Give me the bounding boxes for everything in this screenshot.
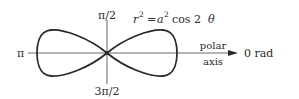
eq-a-exp: 2 xyxy=(164,10,169,19)
label-pi: π xyxy=(17,47,24,60)
label-3pi-over-2: 3π/2 xyxy=(95,85,120,98)
label-polar: polar xyxy=(200,40,227,51)
eq-r-exp: 2 xyxy=(139,10,144,19)
eq-equals: = xyxy=(147,13,156,26)
label-0-rad: 0 rad xyxy=(244,47,273,60)
eq-cos2: cos 2 xyxy=(172,13,201,26)
equation: r 2 = a 2 cos 2 θ xyxy=(133,10,215,26)
arrow-head-icon xyxy=(228,50,238,56)
origin-point xyxy=(105,51,109,55)
lemniscate-diagram: π/2 3π/2 π 0 rad polar axis r 2 = a 2 co… xyxy=(0,0,299,99)
label-axis: axis xyxy=(203,56,223,67)
label-pi-over-2: π/2 xyxy=(98,9,116,22)
eq-a: a xyxy=(157,13,164,26)
eq-theta: θ xyxy=(208,13,215,26)
